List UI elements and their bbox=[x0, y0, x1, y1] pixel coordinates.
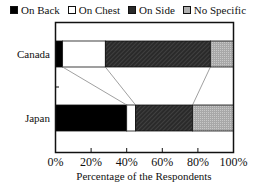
bars-group bbox=[56, 41, 234, 131]
x-tick-label: 80% bbox=[187, 155, 209, 169]
category-label: Japan bbox=[25, 112, 51, 124]
x-tick-label: 100% bbox=[220, 155, 248, 169]
y-axis: CanadaJapan bbox=[17, 48, 50, 124]
connector-line bbox=[105, 67, 135, 105]
bar-segment-on-side bbox=[136, 105, 193, 131]
stacked-bar-chart: 0%20%40%60%80%100% CanadaJapan Percentag… bbox=[0, 0, 255, 186]
x-axis: 0%20%40%60%80%100% bbox=[48, 148, 248, 169]
bar-segment-on-chest bbox=[63, 41, 106, 67]
bar-segment-on-side bbox=[105, 41, 210, 67]
bar-segment-on-back bbox=[56, 41, 63, 67]
bar-segment-no-specific bbox=[210, 41, 233, 67]
bar-segment-no-specific bbox=[193, 105, 234, 131]
bar-segment-on-chest bbox=[127, 105, 136, 131]
x-tick-label: 20% bbox=[80, 155, 102, 169]
connector-line bbox=[193, 67, 211, 105]
bar-segment-on-back bbox=[56, 105, 127, 131]
x-tick-label: 0% bbox=[48, 155, 64, 169]
x-tick-label: 40% bbox=[116, 155, 138, 169]
x-tick-label: 60% bbox=[151, 155, 173, 169]
x-axis-label: Percentage of the Respondents bbox=[76, 170, 211, 182]
connector-line bbox=[63, 67, 127, 105]
category-label: Canada bbox=[17, 48, 50, 60]
